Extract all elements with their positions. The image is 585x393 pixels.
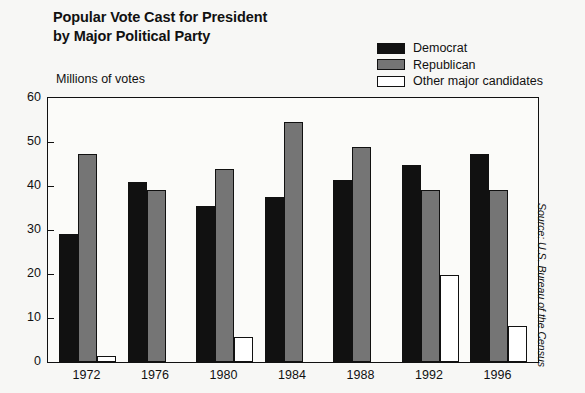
bar-republican-1976[interactable] [147,190,166,362]
legend-item-democrat: Democrat [377,40,543,57]
bar-other-1972[interactable] [97,356,116,362]
y-axis-tick-label: 30 [1,222,41,236]
bar-democrat-1992[interactable] [402,165,421,362]
y-axis-tick-label: 20 [1,266,41,280]
source-note: Source: U.S. Bureau of the Census [536,203,548,367]
y-axis-tick-label: 50 [1,134,41,148]
chart-legend: Democrat Republican Other major candidat… [377,40,543,90]
bar-republican-1988[interactable] [352,147,371,362]
bar-other-1992[interactable] [440,275,459,362]
bar-group [402,98,459,362]
bar-republican-1984[interactable] [284,122,303,362]
legend-label-democrat: Democrat [413,42,467,55]
y-axis-tick-label: 60 [1,90,41,104]
y-axis-tick-mark [48,186,54,187]
plot-area [47,97,539,363]
bar-republican-1980[interactable] [215,169,234,362]
legend-item-other: Other major candidates [377,73,543,90]
bar-democrat-1976[interactable] [128,182,147,362]
x-axis-tick-label: 1972 [52,368,122,382]
x-axis-tick-label: 1992 [394,368,464,382]
y-axis-tick-mark [48,142,54,143]
x-axis-tick-label: 1980 [189,368,259,382]
x-axis-tick-label: 1976 [120,368,190,382]
y-axis-tick-mark [48,274,54,275]
x-axis-tick-label: 1984 [257,368,327,382]
empty-white-square-icon [377,76,405,87]
bar-group [59,98,116,362]
bars-container [48,98,538,362]
page-title: Popular Vote Cast for President by Major… [53,8,267,46]
legend-item-republican: Republican [377,57,543,74]
x-axis-tick-label: 1996 [463,368,533,382]
filled-gray-square-icon [377,59,405,70]
y-axis-tick-mark [48,230,54,231]
bar-other-1980[interactable] [234,337,253,362]
bar-republican-1972[interactable] [78,154,97,362]
bar-group [333,98,390,362]
y-axis-tick-mark [48,318,54,319]
bar-democrat-1984[interactable] [265,197,284,362]
legend-label-other: Other major candidates [413,75,543,88]
bar-democrat-1972[interactable] [59,234,78,362]
bar-democrat-1980[interactable] [196,206,215,362]
bar-group [265,98,322,362]
bar-republican-1996[interactable] [489,190,508,362]
y-axis-tick-label: 40 [1,178,41,192]
bar-other-1996[interactable] [508,326,527,362]
x-axis-tick-label: 1988 [326,368,396,382]
bar-republican-1992[interactable] [421,190,440,362]
bar-group [470,98,527,362]
bar-group [196,98,253,362]
legend-label-republican: Republican [413,59,476,72]
y-axis-tick-label: 0 [1,354,41,368]
bar-democrat-1988[interactable] [333,180,352,362]
y-axis-caption: Millions of votes [56,72,145,86]
bar-democrat-1996[interactable] [470,154,489,362]
filled-black-square-icon [377,43,405,54]
bar-group [128,98,185,362]
y-axis-tick-label: 10 [1,310,41,324]
